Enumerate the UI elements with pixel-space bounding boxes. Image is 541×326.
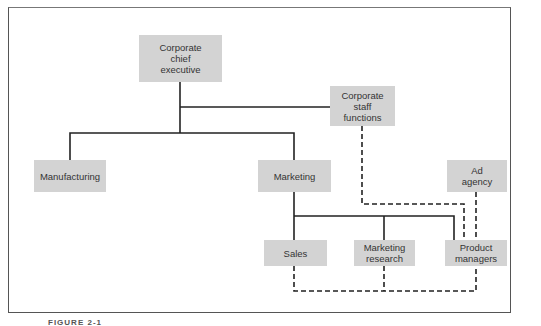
node-product-managers: Product managers bbox=[445, 240, 507, 266]
line-exec-branch bbox=[70, 133, 294, 160]
node-corporate-chief-executive: Corporate chief executive bbox=[139, 35, 222, 82]
node-sales: Sales bbox=[264, 240, 327, 266]
node-ad-agency: Ad agency bbox=[447, 160, 507, 192]
node-marketing: Marketing bbox=[258, 160, 331, 192]
figure-caption: FIGURE 2-1 bbox=[48, 318, 102, 326]
node-marketing-research: Marketing research bbox=[354, 240, 415, 266]
node-manufacturing: Manufacturing bbox=[34, 160, 106, 192]
dashed-pm-bottom bbox=[294, 266, 476, 291]
line-marketing-branch bbox=[294, 216, 454, 240]
node-corporate-staff-functions: Corporate staff functions bbox=[330, 86, 395, 126]
